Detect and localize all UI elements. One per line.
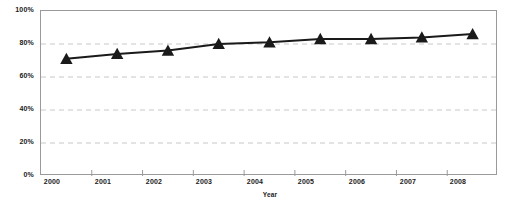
x-axis-tick-label: 2006 bbox=[337, 178, 377, 186]
x-axis-tick-label: 2008 bbox=[438, 178, 478, 186]
series-markers bbox=[60, 28, 479, 64]
gridlines bbox=[41, 44, 498, 143]
x-axis-tick-marks bbox=[92, 170, 447, 176]
plot-area bbox=[40, 10, 497, 175]
x-axis-tick-label: 2004 bbox=[235, 178, 275, 186]
x-axis-title: Year bbox=[240, 191, 300, 199]
chart-container: 100% 80% 60% 40% 20% 0% 2000 2001 2002 2… bbox=[0, 0, 512, 208]
x-axis-tick-label: 2007 bbox=[388, 178, 428, 186]
x-axis-tick-label: 2003 bbox=[184, 178, 224, 186]
y-axis-tick-label: 0% bbox=[0, 171, 34, 179]
y-axis-tick-label: 60% bbox=[0, 72, 34, 80]
chart-svg bbox=[41, 11, 498, 176]
x-axis-tick-label: 2005 bbox=[286, 178, 326, 186]
x-axis-tick-label: 2002 bbox=[134, 178, 174, 186]
y-axis-tick-label: 40% bbox=[0, 105, 34, 113]
x-axis-tick-label: 2001 bbox=[83, 178, 123, 186]
y-axis-tick-label: 80% bbox=[0, 39, 34, 47]
y-axis-tick-label: 20% bbox=[0, 138, 34, 146]
y-axis-tick-label: 100% bbox=[0, 6, 34, 14]
x-axis-tick-label: 2000 bbox=[32, 178, 72, 186]
